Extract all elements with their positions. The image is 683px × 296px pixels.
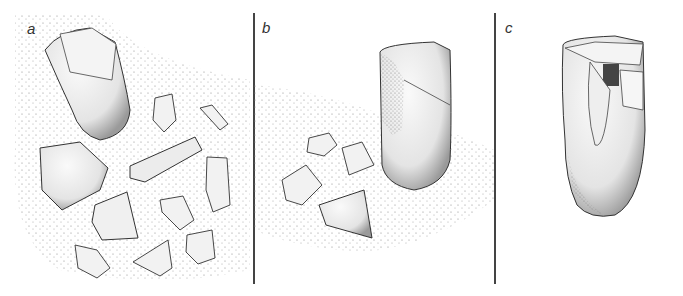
panel-a: a (0, 0, 252, 296)
panel-label-a: a (27, 20, 35, 37)
panel-label-c: c (505, 19, 513, 36)
panel-c: c (495, 0, 683, 296)
panel-c-illustration (495, 0, 683, 296)
panel-label-b: b (262, 19, 270, 36)
panel-b-illustration (254, 0, 494, 296)
panel-b: b (254, 0, 494, 296)
panel-a-illustration (0, 0, 252, 296)
removal-scar (603, 64, 619, 86)
